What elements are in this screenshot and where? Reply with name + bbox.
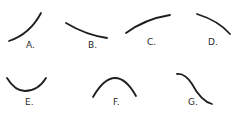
curve-f (93, 78, 136, 97)
curve-c (126, 15, 170, 33)
curve-d (197, 14, 230, 34)
label-a: A. (26, 41, 35, 50)
label-f: F. (113, 98, 120, 107)
curve-a (9, 13, 41, 41)
curve-e (7, 78, 46, 91)
label-e: E. (25, 98, 34, 107)
label-b: B. (88, 41, 97, 50)
curve-b (66, 23, 107, 38)
label-c: C. (147, 38, 156, 47)
label-d: D. (208, 38, 218, 47)
label-g: G. (188, 98, 198, 107)
